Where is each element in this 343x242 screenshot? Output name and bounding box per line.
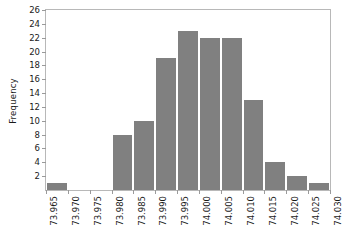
histogram-bar	[286, 176, 308, 190]
histogram-bar	[243, 100, 265, 190]
y-axis-tick-label: 4	[35, 157, 40, 167]
y-axis-tick	[42, 148, 46, 149]
y-axis-tick-label: 14	[29, 88, 40, 98]
x-axis-tick-label: 74.010	[246, 196, 256, 226]
x-axis-tick-label: 74.015	[268, 196, 278, 226]
y-axis-tick-label: 24	[29, 19, 40, 29]
y-axis-tick-label: 26	[29, 5, 40, 15]
y-axis-tick	[42, 176, 46, 177]
histogram-figure: Frequency 246810121416182022242673.96573…	[0, 0, 343, 242]
y-axis-tick	[42, 162, 46, 163]
plot-inner: 246810121416182022242673.96573.97073.975…	[46, 10, 330, 190]
y-axis-tick	[42, 135, 46, 136]
x-axis-tick	[68, 190, 69, 194]
histogram-bar	[46, 183, 68, 190]
y-axis-tick	[42, 52, 46, 53]
x-axis-tick	[330, 190, 331, 194]
x-axis-tick	[286, 190, 287, 194]
y-axis-tick	[42, 93, 46, 94]
x-axis-tick	[133, 190, 134, 194]
y-axis-tick-label: 12	[29, 102, 40, 112]
x-axis-tick	[308, 190, 309, 194]
y-axis-tick-label: 18	[29, 60, 40, 70]
y-axis-tick	[42, 121, 46, 122]
x-axis-tick-label: 73.990	[158, 196, 168, 226]
y-axis-label: Frequency	[8, 61, 18, 141]
x-axis-tick	[46, 190, 47, 194]
x-axis-tick-label: 74.025	[311, 196, 321, 226]
histogram-bar	[112, 135, 134, 190]
x-axis-tick	[243, 190, 244, 194]
y-axis-tick-label: 16	[29, 74, 40, 84]
y-axis-tick	[42, 38, 46, 39]
y-axis-tick	[42, 79, 46, 80]
x-axis-tick	[199, 190, 200, 194]
plot-area: 246810121416182022242673.96573.97073.975…	[45, 9, 331, 191]
y-axis-tick-label: 2	[35, 171, 40, 181]
x-axis-tick-label: 73.995	[180, 196, 190, 226]
y-axis-tick-label: 8	[35, 130, 40, 140]
histogram-bar	[264, 162, 286, 190]
histogram-bar	[177, 31, 199, 190]
histogram-bar	[133, 121, 155, 190]
x-axis-tick	[264, 190, 265, 194]
x-axis-tick-label: 74.000	[202, 196, 212, 226]
x-axis-tick-label: 73.965	[49, 196, 59, 226]
x-axis-tick-label: 74.005	[224, 196, 234, 226]
x-axis-tick-label: 73.970	[71, 196, 81, 226]
histogram-bar	[155, 58, 177, 190]
y-axis-tick	[42, 24, 46, 25]
x-axis-tick-label: 74.030	[333, 196, 343, 226]
x-axis-tick-label: 73.975	[93, 196, 103, 226]
histogram-bar	[308, 183, 330, 190]
x-axis-tick	[177, 190, 178, 194]
x-axis-tick-label: 74.020	[290, 196, 300, 226]
y-axis-tick-label: 10	[29, 116, 40, 126]
y-axis-tick	[42, 65, 46, 66]
x-axis-tick-label: 73.985	[137, 196, 147, 226]
histogram-bar	[199, 38, 221, 190]
y-axis-tick-label: 22	[29, 33, 40, 43]
y-axis-tick-label: 6	[35, 143, 40, 153]
y-axis-tick-label: 20	[29, 47, 40, 57]
y-axis-tick	[42, 10, 46, 11]
y-axis-tick	[42, 107, 46, 108]
histogram-bar	[221, 38, 243, 190]
x-axis-tick	[90, 190, 91, 194]
x-axis-tick	[112, 190, 113, 194]
x-axis-tick	[155, 190, 156, 194]
x-axis-tick	[221, 190, 222, 194]
x-axis-tick-label: 73.980	[115, 196, 125, 226]
